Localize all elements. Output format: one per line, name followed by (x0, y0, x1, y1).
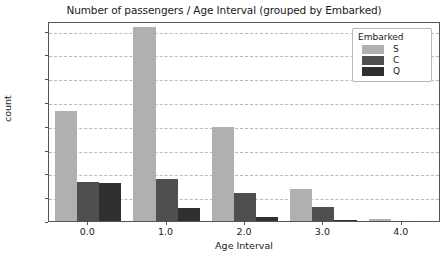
bar-s-2.0 (212, 127, 234, 221)
x-axis-tick-mark (166, 222, 167, 225)
legend-item-q[interactable]: Q (358, 66, 426, 76)
bar-s-4.0 (369, 219, 391, 221)
bar-s-3.0 (290, 189, 312, 221)
bar-c-1.0 (156, 179, 178, 221)
bar-q-3.0 (334, 220, 356, 221)
x-axis-tick-label: 1.0 (146, 226, 186, 237)
x-axis-tick-mark (401, 222, 402, 225)
x-axis-label: Age Interval (48, 240, 440, 251)
legend-label: Q (393, 66, 400, 76)
y-axis-tick-mark (45, 32, 48, 33)
y-axis-tick-mark (45, 174, 48, 175)
y-axis-tick-mark (45, 198, 48, 199)
y-axis-tick-mark (45, 79, 48, 80)
y-axis-tick-mark (45, 103, 48, 104)
bar-s-0.0 (55, 111, 77, 221)
bar-s-1.0 (133, 27, 155, 221)
legend-item-s[interactable]: S (358, 44, 426, 54)
bar-c-2.0 (234, 193, 256, 221)
y-axis-tick-mark (45, 222, 48, 223)
legend: Embarked SCQ (352, 28, 432, 82)
x-axis-tick-mark (322, 222, 323, 225)
bar-c-0.0 (77, 182, 99, 221)
bar-c-3.0 (312, 207, 334, 221)
bar-q-0.0 (99, 183, 121, 221)
y-axis-tick-mark (45, 55, 48, 56)
x-axis-tick-label: 2.0 (224, 226, 264, 237)
bar-q-2.0 (256, 217, 278, 221)
x-axis-tick-mark (87, 222, 88, 225)
legend-item-c[interactable]: C (358, 55, 426, 65)
y-axis-tick-mark (45, 151, 48, 152)
chart-title: Number of passengers / Age Interval (gro… (0, 4, 448, 16)
legend-title: Embarked (358, 32, 426, 42)
legend-label: S (393, 44, 399, 54)
legend-swatch-icon (362, 56, 384, 65)
legend-swatch-icon (362, 45, 384, 54)
y-axis-label: count (2, 95, 13, 122)
y-axis-tick-mark (45, 127, 48, 128)
chart-figure: Number of passengers / Age Interval (gro… (0, 0, 448, 258)
x-axis-tick-label: 3.0 (302, 226, 342, 237)
legend-swatch-icon (362, 67, 384, 76)
x-axis-tick-mark (244, 222, 245, 225)
x-axis-tick-label: 0.0 (67, 226, 107, 237)
x-axis-tick-label: 4.0 (381, 226, 421, 237)
legend-entries: SCQ (358, 44, 426, 76)
bar-q-1.0 (178, 208, 200, 221)
legend-label: C (393, 55, 399, 65)
